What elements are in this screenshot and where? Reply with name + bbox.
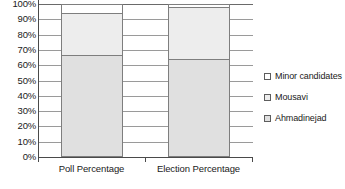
y-axis-tick-label: 40%	[0, 91, 36, 101]
stacked-bar-chart: 100% 90% 80% 70% 60% 50% 40% 30% 20% 10%…	[0, 0, 345, 189]
y-axis-tick-label: 0%	[0, 152, 36, 162]
y-axis-tick-label: 10%	[0, 137, 36, 147]
bar-election-percentage	[168, 4, 230, 157]
x-axis-category-label: Poll Percentage	[38, 163, 145, 175]
y-axis-tick-label: 30%	[0, 106, 36, 116]
legend-swatch-icon	[264, 94, 271, 101]
legend-item-minor-candidates: Minor candidates	[264, 68, 345, 84]
legend-item-ahmadinejad: Ahmadinejad	[264, 110, 345, 126]
y-axis-tick-label: 50%	[0, 76, 36, 86]
y-axis-tick-label: 70%	[0, 45, 36, 55]
legend-label: Minor candidates	[275, 71, 342, 81]
x-axis-category-label: Election Percentage	[145, 163, 252, 175]
y-axis-tick-label: 20%	[0, 121, 36, 131]
chart-legend: Minor candidates Mousavi Ahmadinejad	[264, 68, 345, 131]
bar-segment-ahmadinejad	[168, 59, 230, 157]
bar-segment-ahmadinejad	[61, 55, 123, 158]
bar-segment-mousavi	[61, 13, 123, 54]
y-axis-tick-label: 100%	[0, 0, 36, 9]
x-axis-tick	[252, 157, 253, 162]
bar-segment-minor-candidates	[61, 4, 123, 13]
y-axis-labels: 100% 90% 80% 70% 60% 50% 40% 30% 20% 10%…	[0, 0, 36, 157]
y-axis-tick-label: 90%	[0, 14, 36, 24]
plot-area	[38, 4, 253, 157]
x-axis-tick	[145, 157, 146, 162]
x-axis-labels: Poll Percentage Election Percentage	[38, 163, 253, 179]
legend-item-mousavi: Mousavi	[264, 89, 345, 105]
bar-segment-mousavi	[168, 7, 230, 59]
bar-poll-percentage	[61, 4, 123, 157]
legend-swatch-icon	[264, 115, 271, 122]
legend-label: Mousavi	[275, 92, 308, 102]
x-axis-tick	[38, 157, 39, 162]
y-axis-tick-label: 60%	[0, 60, 36, 70]
legend-swatch-icon	[264, 73, 271, 80]
y-axis-line	[38, 0, 39, 161]
legend-label: Ahmadinejad	[275, 113, 326, 123]
y-axis-tick-label: 80%	[0, 30, 36, 40]
